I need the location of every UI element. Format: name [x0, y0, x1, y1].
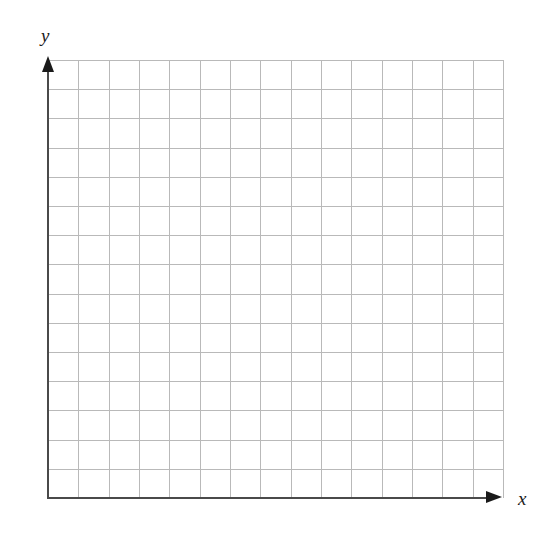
grid-background	[48, 60, 503, 498]
x-axis-line	[48, 497, 490, 499]
grid-right-border	[503, 60, 504, 498]
grid-top-border	[48, 60, 504, 61]
y-axis-arrow-icon	[42, 56, 54, 72]
y-axis-line	[47, 66, 49, 499]
coordinate-plane-figure: y x	[0, 0, 536, 533]
x-axis-arrow-icon	[486, 491, 502, 503]
x-axis-label: x	[518, 489, 526, 508]
y-axis-label: y	[41, 26, 49, 45]
